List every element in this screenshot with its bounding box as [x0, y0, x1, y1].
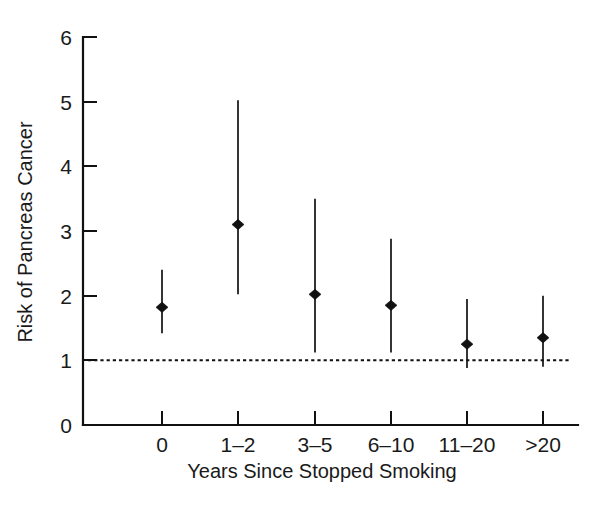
- y-tick-label-1: 1: [60, 349, 72, 372]
- x-tick-label-4: 11–20: [439, 433, 496, 456]
- x-tick-label-0: 0: [156, 433, 168, 456]
- x-tick-label-3: 6–10: [368, 433, 415, 456]
- y-tick-label-3: 3: [60, 220, 72, 243]
- x-tick-label-2: 3–5: [297, 433, 332, 456]
- x-axis-title: Years Since Stopped Smoking: [187, 460, 456, 482]
- data-point-marker: [309, 289, 321, 299]
- x-tick-label-1: 1–2: [220, 433, 255, 456]
- data-point-marker: [537, 333, 549, 343]
- y-tick-label-5: 5: [60, 91, 72, 114]
- data-point-marker: [461, 339, 473, 349]
- y-tick-label-4: 4: [60, 155, 72, 178]
- error-bar-chart: Risk of Pancreas Cancer Years Since Stop…: [0, 0, 594, 510]
- x-axis-ticks: [162, 411, 543, 425]
- y-axis-labels: 6 5 4 3 2 1 0: [60, 26, 72, 437]
- y-axis-title: Risk of Pancreas Cancer: [14, 121, 36, 343]
- x-axis-labels: 0 1–2 3–5 6–10 11–20 >20: [156, 433, 561, 456]
- y-tick-label-2: 2: [60, 285, 72, 308]
- y-tick-label-6: 6: [60, 26, 72, 49]
- data-series-relative-risk: [156, 100, 549, 368]
- data-point-marker: [232, 219, 244, 229]
- data-point-marker: [385, 300, 397, 310]
- data-point-marker: [156, 302, 168, 312]
- figure-container: Risk of Pancreas Cancer Years Since Stop…: [0, 0, 594, 510]
- y-axis-ticks: [83, 37, 97, 360]
- y-tick-label-0: 0: [60, 414, 72, 437]
- x-tick-label-5: >20: [525, 433, 561, 456]
